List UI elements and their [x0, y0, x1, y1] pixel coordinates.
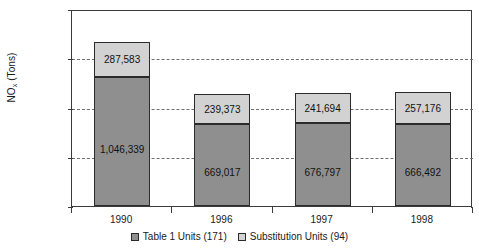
bar-segment-substitution-units[interactable]: 257,176: [395, 92, 451, 124]
x-axis-tick-label: 1997: [292, 214, 352, 225]
x-axis-tick-label: 1996: [191, 214, 251, 225]
legend-swatch-icon: [238, 233, 246, 241]
y-axis-tick-mark: [68, 158, 73, 159]
x-axis-tick-mark: [472, 207, 473, 213]
bar-column[interactable]: 666,492257,176: [395, 9, 451, 206]
bar-column[interactable]: 669,017239,373: [194, 9, 250, 206]
y-axis-title-subscript: x: [11, 84, 18, 88]
legend-label: Substitution Units (94): [250, 231, 348, 242]
bar-column[interactable]: 1,046,339287,583: [94, 9, 150, 206]
x-axis-tick-mark: [272, 207, 273, 213]
plot-area: 0400,000800,0001,200,0001,600,000 1,046,…: [71, 10, 472, 207]
bar-value-label: 666,492: [405, 167, 441, 178]
x-axis-tick-mark: [171, 207, 172, 213]
legend-label: Table 1 Units (171): [143, 231, 227, 242]
bar-value-label: 1,046,339: [100, 144, 145, 155]
bar-segment-table-1-units[interactable]: 666,492: [395, 124, 451, 206]
legend-item[interactable]: Substitution Units (94): [238, 231, 348, 242]
bar-segment-table-1-units[interactable]: 676,797: [295, 123, 351, 206]
bar-segment-table-1-units[interactable]: 1,046,339: [94, 77, 150, 206]
bar-segment-table-1-units[interactable]: 669,017: [194, 124, 250, 206]
x-axis-tick-mark: [372, 207, 373, 213]
y-axis-tick-mark: [68, 10, 73, 11]
x-axis-tick-label: 1998: [392, 214, 452, 225]
bar-value-label: 676,797: [305, 167, 341, 178]
x-axis-tick-mark: [71, 207, 72, 213]
legend-swatch-icon: [131, 233, 139, 241]
bar-segment-substitution-units[interactable]: 239,373: [194, 94, 250, 123]
bar-column[interactable]: 676,797241,694: [295, 9, 351, 206]
bar-value-label: 669,017: [204, 167, 240, 178]
bar-value-label: 257,176: [405, 103, 441, 114]
bar-value-label: 241,694: [305, 103, 341, 114]
bar-segment-substitution-units[interactable]: 241,694: [295, 93, 351, 123]
x-axis-tick-label: 1990: [91, 214, 151, 225]
nox-emissions-stacked-bar-chart: NOx (Tons) 0400,000800,0001,200,0001,600…: [0, 0, 479, 248]
y-axis-title-suffix: (Tons): [6, 52, 17, 83]
legend-item[interactable]: Table 1 Units (171): [131, 231, 227, 242]
y-axis-tick-mark: [68, 109, 73, 110]
bar-segment-substitution-units[interactable]: 287,583: [94, 42, 150, 77]
bar-value-label: 239,373: [204, 104, 240, 115]
y-axis-title: NOx (Tons): [6, 33, 17, 123]
bar-value-label: 287,583: [104, 54, 140, 65]
y-axis-tick-mark: [68, 59, 73, 60]
chart-legend: Table 1 Units (171)Substitution Units (9…: [0, 231, 479, 242]
y-axis-title-prefix: NO: [6, 87, 17, 102]
